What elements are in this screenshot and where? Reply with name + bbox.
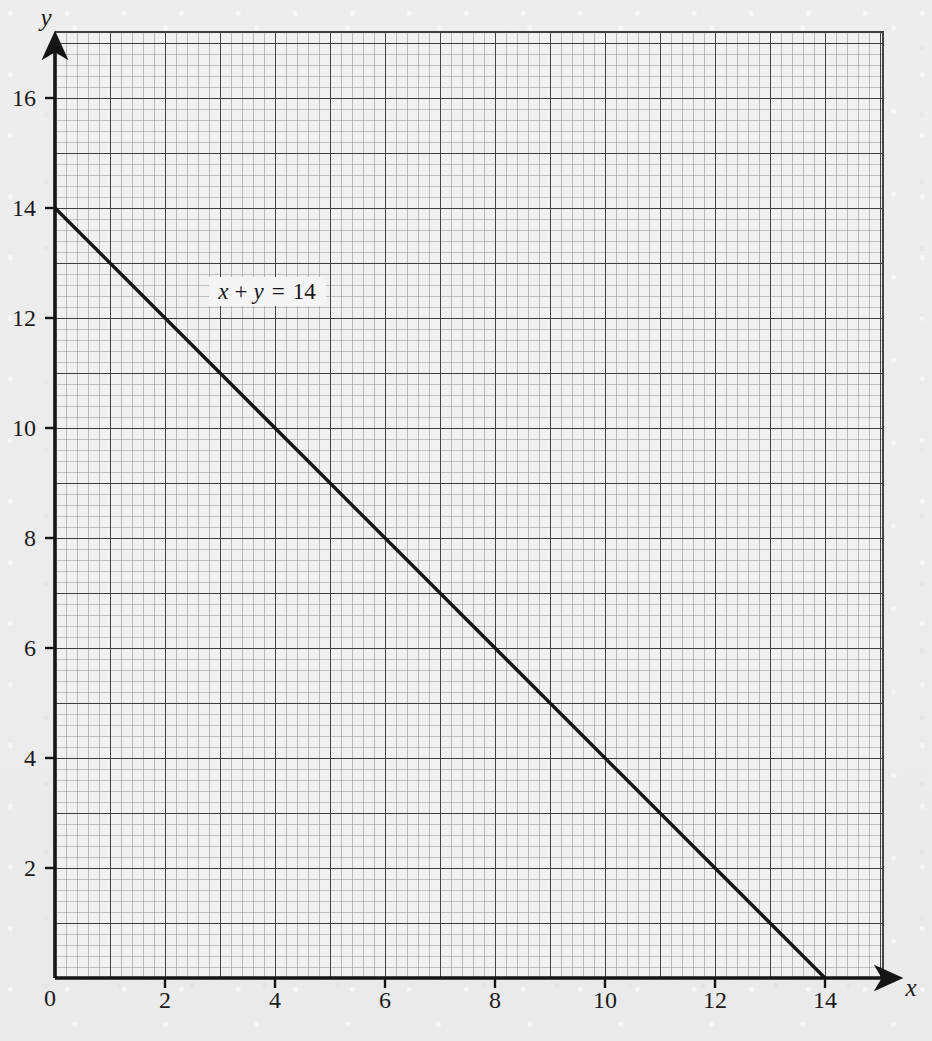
x-tick-label-0: 0 [44,985,56,1011]
x-tick-label-14: 14 [813,987,837,1013]
x-tick-label-4: 4 [269,987,281,1013]
y-tick-label-12: 12 [12,305,36,331]
y-tick-label-8: 8 [24,525,36,551]
equation-annotation: x+y=14 [209,277,326,306]
equation-plus: + [235,279,248,304]
equation-lhs-x: x [217,279,229,304]
y-tick-label-14: 14 [12,195,36,221]
y-tick-label-4: 4 [24,745,36,771]
graph-figure: 0 2 4 6 8 10 12 14 2 4 6 8 10 12 14 16 x… [0,0,932,1041]
x-tick-label-12: 12 [703,987,727,1013]
x-tick-label-6: 6 [379,987,391,1013]
y-tick-label-6: 6 [24,635,36,661]
x-tick-label-8: 8 [489,987,501,1013]
y-axis-tick-labels: 2 4 6 8 10 12 14 16 [12,85,36,881]
y-tick-label-16: 16 [12,85,36,111]
equation-rhs: 14 [293,279,317,304]
graph-svg: 0 2 4 6 8 10 12 14 2 4 6 8 10 12 14 16 x… [0,0,932,1041]
y-axis-label: y [37,4,52,31]
equation-lhs-y: y [252,279,265,304]
equation-equals: = [272,279,285,304]
x-axis-tick-labels: 0 2 4 6 8 10 12 14 [44,985,837,1013]
major-gridlines [55,32,883,978]
x-tick-label-2: 2 [159,987,171,1013]
plot-area [55,32,883,978]
y-tick-label-10: 10 [12,415,36,441]
x-tick-label-10: 10 [593,987,617,1013]
x-axis-label: x [904,974,916,1001]
y-tick-label-2: 2 [24,855,36,881]
